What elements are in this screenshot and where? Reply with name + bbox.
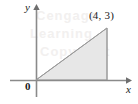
origin-label: 0 [25,81,31,92]
figure-container: Cengage Learning Copyright (4, 3) 0 x y [0,0,138,104]
coordinate-plane-graphic [0,0,138,104]
y-axis-arrowhead-icon [33,4,39,10]
x-axis-label: x [126,84,131,95]
point-label: (4, 3) [89,10,114,21]
y-axis-label: y [25,2,30,13]
